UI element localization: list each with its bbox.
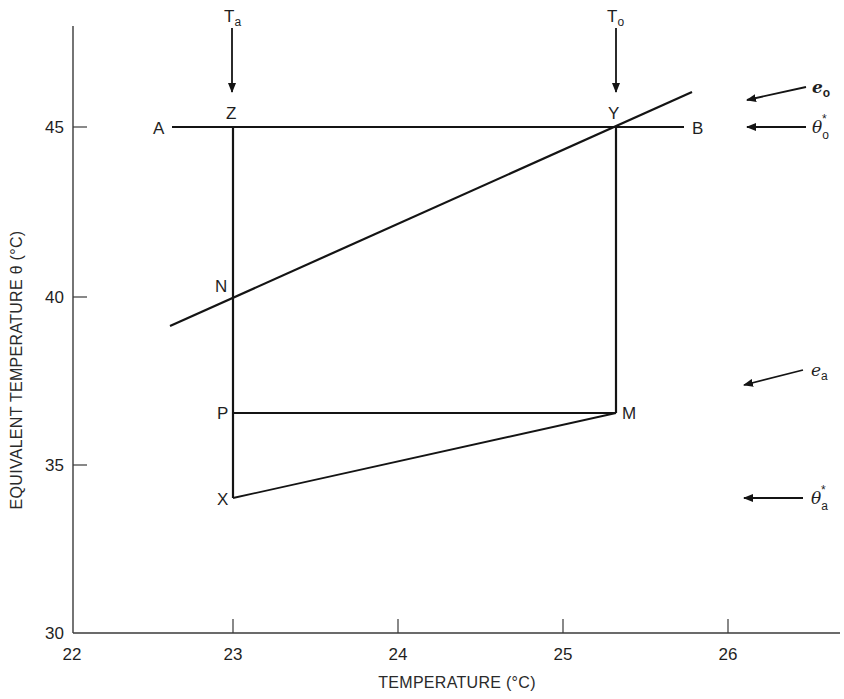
point-label-a: A xyxy=(153,119,165,138)
point-label-z: Z xyxy=(226,104,236,123)
line-x-m xyxy=(233,413,616,498)
x-tick-label: 24 xyxy=(389,645,408,664)
point-label-n: N xyxy=(215,277,227,296)
x-axis-title: TEMPERATURE (°C) xyxy=(378,674,536,691)
left-arrow-icon xyxy=(744,370,803,385)
left-arrow-icon xyxy=(747,87,806,100)
point-labels: A Z Y B N P M X xyxy=(153,104,703,509)
arrow-ta: Ta xyxy=(224,7,241,92)
theta-a-label: θa* xyxy=(811,483,828,513)
x-tick-label: 23 xyxy=(224,645,243,664)
point-label-b: B xyxy=(692,119,703,138)
point-label-x: X xyxy=(217,490,228,509)
axes xyxy=(73,26,840,633)
point-label-p: P xyxy=(217,404,228,423)
to-label: To xyxy=(607,7,624,29)
y-tick-label: 30 xyxy=(45,624,64,643)
annotation-theta-a: θa* xyxy=(744,483,828,513)
y-tick-label: 45 xyxy=(45,118,64,137)
arrow-to: To xyxy=(607,7,624,92)
diagram-canvas: 45 40 35 30 22 23 24 25 26 TEMPERATURE (… xyxy=(0,0,844,699)
eo-label: eo xyxy=(812,77,830,100)
point-label-m: M xyxy=(622,404,636,423)
point-label-y: Y xyxy=(608,104,619,123)
theta-o-label: θo* xyxy=(812,112,829,142)
annotation-eo: eo xyxy=(747,77,830,100)
y-axis-title: EQUIVALENT TEMPERATURE θ (°C) xyxy=(8,231,25,510)
ea-label: ea xyxy=(811,360,828,383)
x-tick-label: 25 xyxy=(554,645,573,664)
x-tick-label: 22 xyxy=(63,645,82,664)
x-tick-labels: 22 23 24 25 26 xyxy=(63,645,738,664)
y-tick-label: 35 xyxy=(45,456,64,475)
ta-label: Ta xyxy=(224,7,241,29)
annotation-ea: ea xyxy=(744,360,828,385)
y-tick-label: 40 xyxy=(45,288,64,307)
diagram-lines xyxy=(170,92,692,498)
annotation-theta-o: θo* xyxy=(747,112,829,142)
x-tick-label: 26 xyxy=(719,645,738,664)
y-tick-labels: 45 40 35 30 xyxy=(45,118,64,643)
